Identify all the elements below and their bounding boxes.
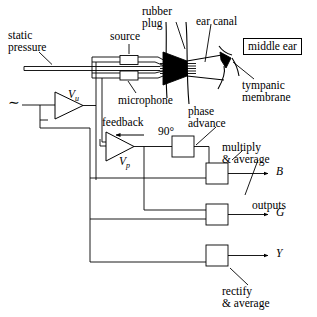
leader-ear-canal [205,24,211,62]
multiply-average-box-b [206,163,228,184]
label-multiply-average: multiply & average [222,142,270,165]
label-source: source [110,31,140,43]
wire-vp-feedback [100,139,106,146]
label-phase-advance: phase advance [188,106,226,129]
signal-source-icon: ∼ [8,97,20,109]
label-amplifier-vu: Vu [68,89,79,105]
label-output-g: G [276,207,284,219]
figure-canvas: static pressure source rubber plug ear c… [0,0,317,317]
label-tympanic-membrane: tympanic membrane [242,80,291,103]
phase-advance-box [172,136,194,157]
label-output-y: Y [276,248,282,260]
rectify-average-box-y [206,245,228,266]
static-pressure-tube [24,67,92,71]
leader-static-pressure [39,52,52,65]
wire-microphone-return [102,78,106,142]
leader-tympanic-membrane [233,62,254,79]
leader-phase-advance [196,127,216,145]
leader-multiply-average-g [245,160,258,195]
leader-rubber-plug [176,22,185,49]
label-rectify-average: rectify & average [222,286,270,309]
wire-vu-feedback [40,105,48,120]
label-rubber-plug: rubber plug [142,6,172,29]
leader-microphone [128,81,136,93]
label-microphone: microphone [118,95,173,107]
label-ear-canal: ear canal [196,16,237,28]
multiply-average-box-g [206,204,228,225]
label-output-b: B [276,166,283,178]
label-feedback: feedback [102,117,144,129]
label-amplifier-vp: Vp [119,156,130,172]
wire-vu-feedback-return [40,120,90,128]
label-static-pressure: static pressure [8,30,46,53]
microphone-transducer-box [120,71,138,80]
label-middle-ear: middle ear [243,38,302,55]
source-transducer-box [120,56,138,65]
ear-outer-curve-mid [232,58,239,76]
ear-outer-curve-lower [218,66,225,89]
label-ninety-degrees: 90° [158,126,174,138]
leader-rectify-average [230,268,248,285]
